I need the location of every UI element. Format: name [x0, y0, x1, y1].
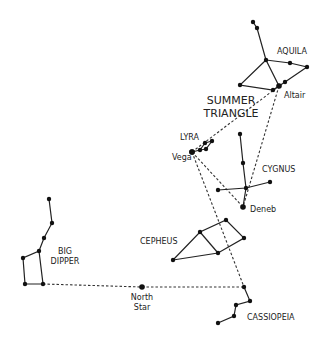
lyra-star: [210, 139, 214, 143]
label-deneb: Deneb: [250, 205, 276, 214]
dashed-guide-line: [192, 152, 243, 207]
cygnus-line: [240, 134, 246, 207]
cygnus-star: [238, 132, 242, 136]
cassiopeia-star: [248, 299, 252, 303]
cepheus-star: [224, 218, 228, 222]
label-big-dipper-1: BIG: [58, 247, 72, 256]
label-lyra: LYRA: [180, 133, 200, 142]
aquila-star: [251, 20, 255, 24]
aquila-star: [283, 80, 287, 84]
cygnus-star: [241, 161, 245, 165]
cepheus-line: [200, 232, 218, 253]
cepheus-star: [216, 251, 220, 255]
cepheus-star: [242, 236, 246, 240]
label-cepheus: CEPHEUS: [140, 237, 177, 246]
cepheus-star: [171, 258, 175, 262]
aquila-star: [238, 83, 242, 87]
label-big-dipper-2: DIPPER: [51, 257, 80, 266]
label-cassiopeia: CASSIOPEIA: [247, 313, 295, 322]
dashed-guide-line: [192, 152, 244, 287]
big-dipper-star: [42, 236, 46, 240]
aquila-star: [271, 88, 275, 92]
big-dipper-line: [23, 199, 52, 284]
lyra-star: [203, 141, 207, 145]
big-dipper-star: [47, 197, 51, 201]
lyra-star: [204, 147, 208, 151]
big-dipper-star: [23, 282, 27, 286]
label-north-star-2: Star: [134, 303, 151, 312]
aquila-star: [255, 26, 259, 30]
labels: SUMMER TRIANGLE AQUILA LYRA CYGNUS CEPHE…: [51, 47, 308, 322]
title-line-2: TRIANGLE: [203, 107, 259, 120]
deneb-star: [240, 204, 246, 210]
aquila-star: [305, 65, 309, 69]
title-line-1: SUMMER: [207, 94, 256, 107]
big-dipper-star: [37, 249, 41, 253]
big-dipper-star: [21, 256, 25, 260]
north-star-star: [139, 284, 145, 290]
big-dipper-star: [41, 282, 45, 286]
cygnus-star: [268, 180, 272, 184]
cassiopeia-star: [216, 321, 220, 325]
aquila-line: [266, 60, 279, 86]
label-vega: Vega: [172, 153, 192, 162]
big-dipper-star: [50, 221, 54, 225]
cepheus-star: [198, 230, 202, 234]
label-cygnus: CYGNUS: [262, 165, 295, 174]
label-altair: Altair: [284, 91, 306, 100]
cassiopeia-star: [242, 285, 246, 289]
lyra-star: [198, 148, 202, 152]
aquila-star: [264, 58, 268, 62]
cygnus-star: [244, 186, 248, 190]
star-chart: SUMMER TRIANGLE AQUILA LYRA CYGNUS CEPHE…: [0, 0, 325, 343]
cepheus-line: [173, 220, 244, 260]
cassiopeia-star: [232, 314, 236, 318]
label-aquila: AQUILA: [277, 47, 307, 56]
cassiopeia-star: [234, 303, 238, 307]
aquila-star: [288, 61, 292, 65]
altair-star: [276, 83, 282, 89]
label-north-star-1: North: [131, 293, 153, 302]
cygnus-star: [216, 188, 220, 192]
